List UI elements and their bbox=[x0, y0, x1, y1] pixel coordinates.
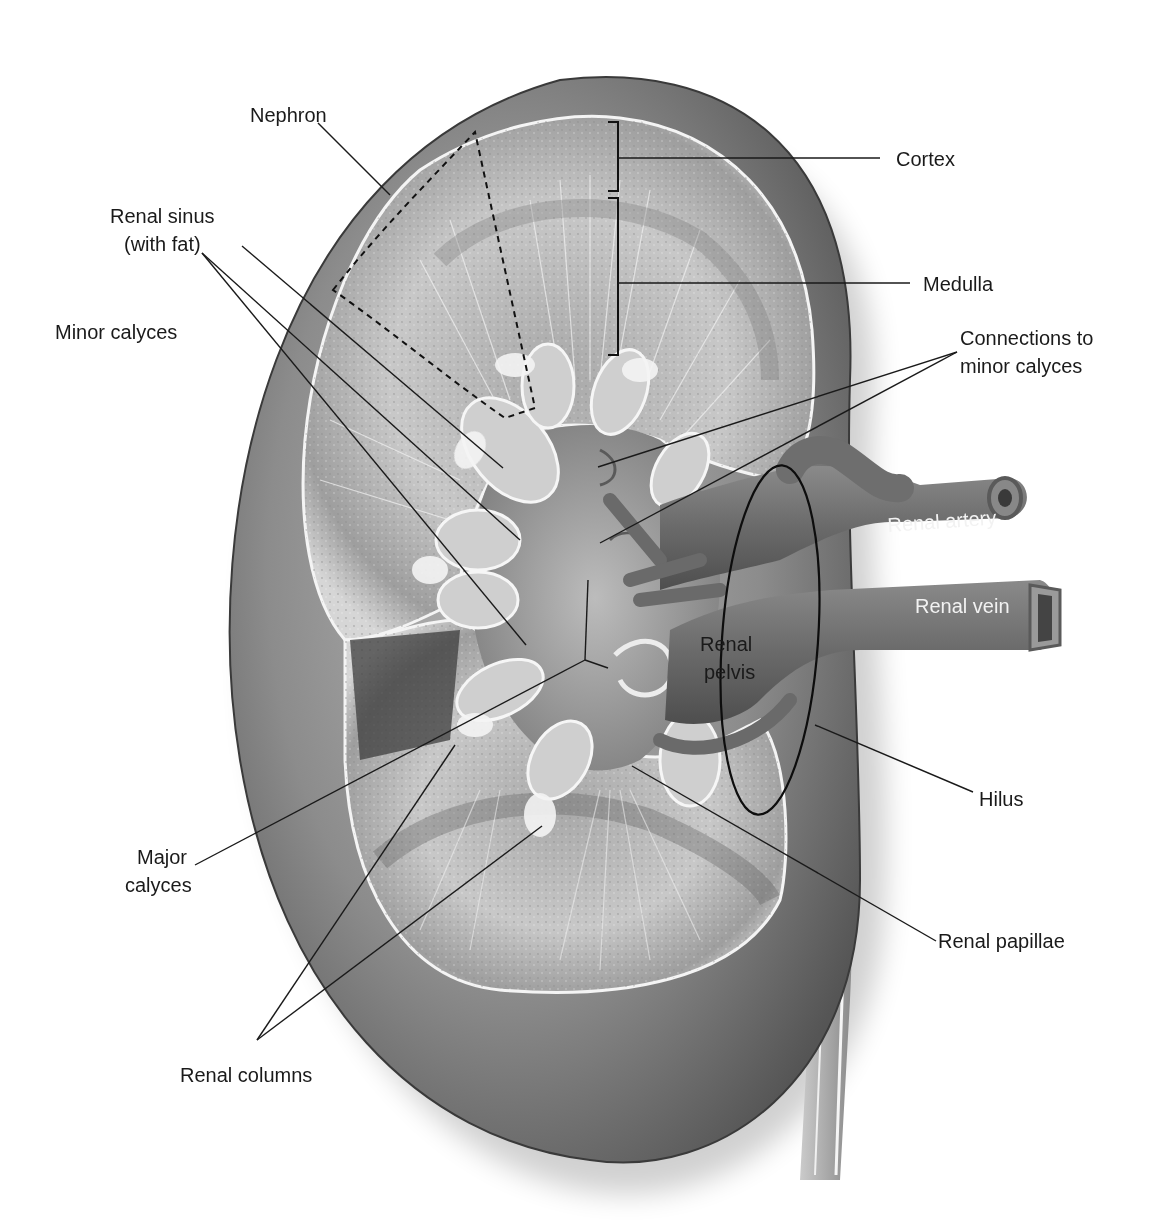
label-major-calyces-line2: calyces bbox=[125, 874, 192, 896]
label-minor-calyces: Minor calyces bbox=[55, 321, 177, 343]
label-renal-pelvis-line1: Renal bbox=[700, 633, 752, 655]
label-hilus: Hilus bbox=[979, 788, 1023, 810]
label-connections-line2: minor calyces bbox=[960, 355, 1082, 377]
label-renal-papillae: Renal papillae bbox=[938, 930, 1065, 952]
label-connections-line1: Connections to bbox=[960, 327, 1093, 349]
label-renal-sinus-line1: Renal sinus bbox=[110, 205, 215, 227]
label-renal-sinus-line2: (with fat) bbox=[124, 233, 201, 255]
label-nephron: Nephron bbox=[250, 104, 327, 126]
label-renal-vein: Renal vein bbox=[915, 595, 1010, 617]
label-renal-pelvis-line2: pelvis bbox=[704, 661, 755, 683]
label-medulla: Medulla bbox=[923, 273, 994, 295]
label-renal-columns: Renal columns bbox=[180, 1064, 312, 1086]
label-cortex: Cortex bbox=[896, 148, 955, 170]
label-major-calyces-line1: Major bbox=[137, 846, 187, 868]
kidney-diagram: Nephron Renal sinus (with fat) Minor cal… bbox=[0, 0, 1149, 1224]
